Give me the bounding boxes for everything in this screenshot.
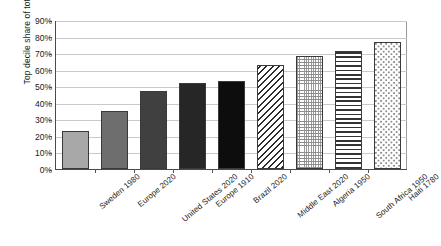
y-tick-mark	[49, 54, 52, 55]
bar-united-states-2020	[140, 91, 167, 169]
y-tick-mark	[49, 136, 52, 137]
y-tick-mark	[49, 70, 52, 71]
bar-series	[56, 21, 407, 169]
x-axis-label: South Africa 1950	[374, 172, 429, 221]
bar-slot	[212, 21, 251, 169]
plot-area	[55, 21, 407, 170]
y-tick-mark	[49, 87, 52, 88]
bar-slot	[95, 21, 134, 169]
y-tick-mark	[49, 120, 52, 121]
bar-europe-2020	[101, 111, 128, 169]
y-tick-mark	[49, 153, 52, 154]
bar-europe-1910	[179, 83, 206, 169]
x-axis-labels: Sweden 1980Europe 2020United States 2020…	[55, 172, 407, 246]
bar-middle-east-2020	[257, 65, 284, 169]
y-axis-ticks: 90%80%70%60%50%40%30%20%10%0%	[18, 0, 52, 246]
bar-haiti-1780	[374, 42, 401, 169]
y-tick-mark	[49, 170, 52, 171]
x-axis-label: Sweden 1980	[97, 172, 141, 211]
bar-slot	[173, 21, 212, 169]
bar-slot	[290, 21, 329, 169]
bar-brazil-2020	[218, 81, 245, 169]
bar-slot	[56, 21, 95, 169]
y-tick-mark	[49, 37, 52, 38]
bar-slot	[368, 21, 407, 169]
y-tick-mark	[49, 21, 52, 22]
bar-slot	[329, 21, 368, 169]
y-tick-mark	[49, 103, 52, 104]
x-axis-label: Brazil 2020	[252, 172, 289, 205]
bar-slot	[251, 21, 290, 169]
x-axis-label: Europe 2020	[136, 172, 178, 209]
bar-sweden-1980	[62, 131, 89, 169]
bar-south-africa-1950	[335, 51, 362, 169]
bar-algeria-1950	[296, 56, 323, 169]
bar-slot	[134, 21, 173, 169]
